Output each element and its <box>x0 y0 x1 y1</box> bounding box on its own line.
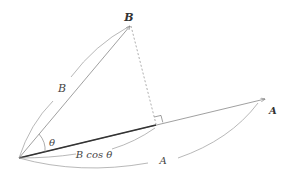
b-magnitude-arc-upper <box>71 27 128 77</box>
label-theta: θ <box>49 137 55 148</box>
perpendicular-dashed-line <box>131 26 156 124</box>
angle-arc <box>39 134 45 152</box>
label-b-magnitude: B <box>57 82 66 95</box>
label-a-magnitude: A <box>158 155 166 166</box>
label-a-tip: A <box>268 105 277 116</box>
label-b-tip: B <box>123 11 133 24</box>
right-angle-marker <box>154 115 163 122</box>
a-magnitude-arc-right <box>178 103 258 158</box>
projection-diagram: B A B θ B cos θ A <box>0 0 292 180</box>
label-projection: B cos θ <box>75 149 112 160</box>
b-magnitude-arc-lower <box>19 101 53 158</box>
vector-b <box>19 26 130 158</box>
